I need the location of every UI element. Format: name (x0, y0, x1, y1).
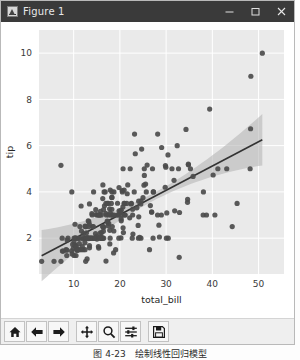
svg-text:40: 40 (207, 279, 219, 289)
window-titlebar[interactable]: Figure 1 (1, 1, 294, 22)
svg-text:8: 8 (26, 95, 32, 105)
figure-window: Figure 1 1020304050246810total_billtip (0, 0, 295, 345)
svg-text:10: 10 (68, 279, 80, 289)
svg-text:50: 50 (253, 279, 265, 289)
svg-text:6: 6 (26, 141, 32, 151)
maximize-button[interactable] (242, 1, 268, 22)
svg-text:10: 10 (21, 48, 33, 58)
figure-caption: 图 4-23 绘制线性回归模型 (0, 347, 300, 360)
forward-arrow-icon[interactable] (48, 321, 69, 342)
svg-text:2: 2 (26, 233, 32, 243)
svg-text:20: 20 (114, 279, 126, 289)
save-floppy-icon[interactable] (148, 321, 169, 342)
navigation-toolbar (1, 318, 294, 344)
y-axis-label: tip (4, 146, 15, 158)
svg-text:30: 30 (160, 279, 172, 289)
home-icon[interactable] (4, 321, 25, 342)
svg-text:4: 4 (26, 187, 32, 197)
window-title: Figure 1 (23, 6, 65, 17)
matplotlib-icon (7, 6, 18, 17)
desktop: Figure 1 1020304050246810total_billtip (0, 0, 300, 360)
regression-scatter-plot[interactable]: 1020304050246810total_billtip (1, 22, 294, 318)
minimize-button[interactable] (216, 1, 242, 22)
x-axis-label: total_bill (141, 294, 181, 305)
close-button[interactable] (268, 1, 294, 22)
figure-canvas[interactable]: 1020304050246810total_billtip (1, 22, 294, 318)
back-arrow-icon[interactable] (26, 321, 47, 342)
zoom-magnifier-icon[interactable] (98, 321, 119, 342)
configure-subplots-icon[interactable] (120, 321, 141, 342)
pan-move-icon[interactable] (76, 321, 97, 342)
